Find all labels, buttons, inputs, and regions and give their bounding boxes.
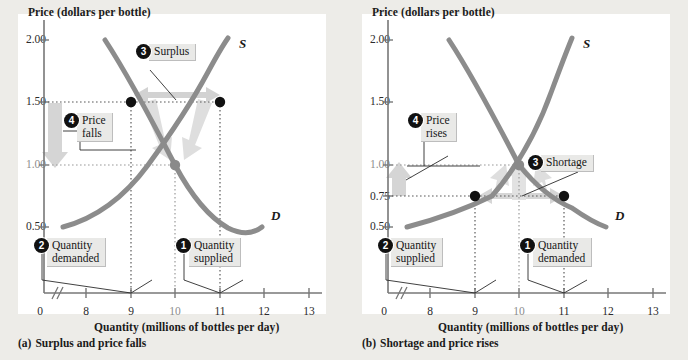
point-quantity-demanded-b — [559, 191, 569, 201]
callout-badge-3-a: 3 — [136, 44, 151, 59]
callout-1-b[interactable]: 1 Quantity demanded — [520, 238, 592, 267]
callout-badge-1-b: 1 — [520, 238, 535, 253]
surplus-arrow-a — [134, 87, 220, 103]
panel-caption-text-b: Shortage and price rises — [380, 337, 499, 349]
point-equilibrium-b — [514, 160, 524, 170]
panel-caption-b: (b)Shortage and price rises — [362, 337, 499, 349]
callout-2-b[interactable]: 2 Quantity supplied — [378, 238, 443, 267]
panel-caption-a: (a)Surplus and price falls — [18, 337, 146, 349]
graph-svg-b — [344, 0, 688, 360]
callout-badge-2-a: 2 — [34, 238, 49, 253]
callout-text-4-b: Price rises — [421, 113, 457, 142]
leader-qd-tail-a — [131, 280, 152, 293]
callout-3-b[interactable]: 3 Shortage — [528, 155, 594, 172]
callout-text-4-a: Price falls — [77, 113, 113, 142]
callout-text-2-a: Quantity demanded — [47, 238, 106, 267]
callout-text-3-b: Shortage — [541, 155, 594, 172]
callout-2-a[interactable]: 2 Quantity demanded — [34, 238, 106, 267]
panel-b: Price (dollars per bottle) 2.00 1.50 1.0… — [344, 0, 688, 360]
panel-caption-id-b: (b) — [362, 337, 376, 349]
panel-caption-text-a: Surplus and price falls — [35, 337, 146, 349]
demand-curve-a — [105, 40, 262, 233]
leader-qd-tail-b — [564, 280, 587, 293]
leader-qs-tail-b — [475, 280, 496, 293]
callout-badge-4-a: 4 — [64, 113, 79, 128]
callout-text-1-a: Quantity supplied — [189, 238, 241, 267]
callout-3-a[interactable]: 3 Surplus — [136, 44, 196, 61]
callout-4-b[interactable]: 4 Price rises — [408, 113, 457, 142]
callout-text-2-b: Quantity supplied — [391, 238, 443, 267]
point-quantity-demanded-a — [126, 97, 136, 107]
panel-caption-id-a: (a) — [18, 337, 31, 349]
callout-1-a[interactable]: 1 Quantity supplied — [176, 238, 241, 267]
point-equilibrium-a — [170, 160, 180, 170]
point-quantity-supplied-a — [215, 97, 225, 107]
callout-badge-4-b: 4 — [408, 113, 423, 128]
callout-badge-2-b: 2 — [378, 238, 393, 253]
supply-demand-figure: Price (dollars per bottle) 2.00 1.50 1.0… — [0, 0, 688, 360]
callout-4-a[interactable]: 4 Price falls — [64, 113, 113, 142]
callout-text-3-a: Surplus — [149, 44, 196, 61]
callout-badge-3-b: 3 — [528, 155, 543, 170]
leader-qs-tail-a — [220, 280, 243, 293]
leader-price-rises-tail-b — [406, 156, 448, 180]
point-quantity-supplied-b — [470, 191, 480, 201]
callout-badge-1-a: 1 — [176, 238, 191, 253]
panel-a: Price (dollars per bottle) 2.00 1.50 1.0… — [0, 0, 344, 360]
callout-text-1-b: Quantity demanded — [533, 238, 592, 267]
